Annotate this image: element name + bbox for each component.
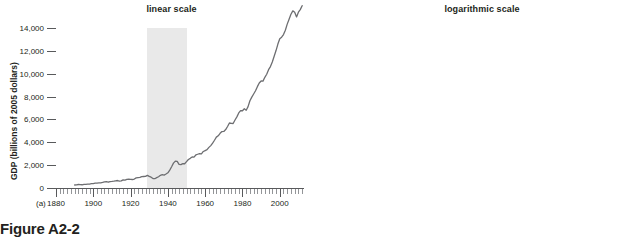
x-minor-tick: [160, 189, 161, 194]
x-minor-tick: [149, 189, 150, 194]
y-tick-label: 2,000: [24, 161, 44, 170]
y-tick-mark: [47, 97, 56, 98]
x-minor-tick: [261, 189, 262, 194]
x-minor-tick: [157, 189, 158, 194]
x-minor-tick: [272, 189, 273, 194]
x-minor-tick: [228, 189, 229, 194]
x-minor-tick: [216, 189, 217, 194]
y-tick-mark: [47, 74, 56, 75]
x-tick-label: 1900: [84, 199, 102, 208]
figure-caption: Figure A2-2: [0, 220, 80, 237]
figure-a2-2: linear scale GDP (billions of 2005 dolla…: [0, 0, 629, 243]
x-minor-tick: [209, 189, 210, 194]
panel-b-title: logarithmic scale: [315, 4, 629, 14]
x-major-tick: [280, 189, 281, 197]
x-minor-tick: [101, 189, 102, 194]
x-minor-tick: [146, 189, 147, 194]
x-minor-tick: [254, 189, 255, 194]
x-minor-tick: [71, 189, 72, 194]
x-minor-tick: [119, 189, 120, 194]
x-tick-label: 1920: [122, 199, 140, 208]
x-minor-tick: [276, 189, 277, 194]
y-tick-mark: [47, 28, 56, 29]
x-major-tick: [205, 189, 206, 197]
x-minor-tick: [283, 189, 284, 194]
y-tick-mark: [47, 165, 56, 166]
panel-a-title: linear scale: [0, 4, 315, 14]
x-minor-tick: [265, 189, 266, 194]
x-minor-tick: [224, 189, 225, 194]
x-minor-tick: [287, 189, 288, 194]
y-tick-mark: [47, 142, 56, 143]
x-tick-label: 1960: [196, 199, 214, 208]
panel-a-linear-scale: linear scale GDP (billions of 2005 dolla…: [0, 0, 315, 210]
x-minor-tick: [239, 189, 240, 194]
x-minor-tick: [220, 189, 221, 194]
x-minor-tick: [112, 189, 113, 194]
panel-a-y-axis-label: GDP (billions of 2005 dollars): [9, 62, 19, 180]
x-minor-tick: [194, 189, 195, 194]
x-minor-tick: [153, 189, 154, 194]
x-minor-tick: [235, 189, 236, 194]
x-minor-tick: [63, 189, 64, 194]
x-minor-tick: [198, 189, 199, 194]
panel-b-logarithmic-scale: logarithmic scale GDP (billions of 2005 …: [315, 0, 629, 210]
x-minor-tick: [90, 189, 91, 194]
x-minor-tick: [116, 189, 117, 194]
y-tick-mark: [47, 188, 56, 189]
x-major-tick: [131, 189, 132, 197]
x-minor-tick: [246, 189, 247, 194]
x-minor-tick: [175, 189, 176, 194]
x-minor-tick: [127, 189, 128, 194]
x-minor-tick: [67, 189, 68, 194]
panel-a-plot-area: 1880190019201940196019802000 02,0004,000…: [56, 28, 304, 188]
y-tick-mark: [47, 119, 56, 120]
x-minor-tick: [257, 189, 258, 194]
x-minor-tick: [108, 189, 109, 194]
y-tick-label: 12,000: [20, 46, 44, 55]
x-minor-tick: [75, 189, 76, 194]
x-minor-tick: [142, 189, 143, 194]
panel-a-x-axis: 1880190019201940196019802000: [56, 188, 304, 189]
panel-a-letter: (a): [36, 199, 46, 208]
x-tick-label: 1980: [234, 199, 252, 208]
x-minor-tick: [60, 189, 61, 194]
x-minor-tick: [82, 189, 83, 194]
x-tick-label: 1940: [159, 199, 177, 208]
x-minor-tick: [97, 189, 98, 194]
x-minor-tick: [250, 189, 251, 194]
y-tick-label: 14,000: [20, 24, 44, 33]
x-minor-tick: [78, 189, 79, 194]
x-minor-tick: [123, 189, 124, 194]
x-minor-tick: [291, 189, 292, 194]
x-tick-label: 1880: [47, 199, 65, 208]
x-major-tick: [56, 189, 57, 197]
x-minor-tick: [231, 189, 232, 194]
x-minor-tick: [269, 189, 270, 194]
y-tick-label: 6,000: [24, 115, 44, 124]
x-minor-tick: [298, 189, 299, 194]
x-minor-tick: [183, 189, 184, 194]
y-tick-label: 4,000: [24, 138, 44, 147]
x-minor-tick: [179, 189, 180, 194]
x-minor-tick: [134, 189, 135, 194]
x-minor-tick: [104, 189, 105, 194]
x-major-tick: [242, 189, 243, 197]
x-minor-tick: [164, 189, 165, 194]
x-minor-tick: [172, 189, 173, 194]
x-minor-tick: [138, 189, 139, 194]
x-minor-tick: [201, 189, 202, 194]
y-tick-mark: [47, 51, 56, 52]
x-major-tick: [93, 189, 94, 197]
y-tick-label: 0: [40, 184, 44, 193]
y-tick-label: 8,000: [24, 92, 44, 101]
x-minor-tick: [86, 189, 87, 194]
y-tick-label: 10,000: [20, 69, 44, 78]
x-major-tick: [168, 189, 169, 197]
x-minor-tick: [213, 189, 214, 194]
panel-a-gdp-line: [56, 28, 304, 188]
x-minor-tick: [295, 189, 296, 194]
x-tick-label: 2000: [271, 199, 289, 208]
x-minor-tick: [190, 189, 191, 194]
x-minor-tick: [187, 189, 188, 194]
